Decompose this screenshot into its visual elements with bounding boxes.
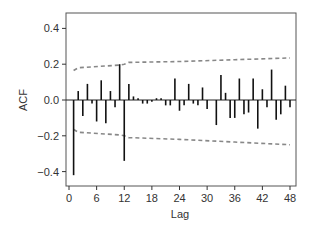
x-tick-label: 18 xyxy=(146,192,158,204)
acf-chart: −0.4−0.20.00.20.4 0612182430364248 Lag A… xyxy=(0,0,312,233)
x-tick-label: 12 xyxy=(118,192,130,204)
x-tick-label: 6 xyxy=(94,192,100,204)
y-axis: −0.4−0.20.00.20.4 xyxy=(37,22,66,177)
x-axis-label: Lag xyxy=(171,208,189,220)
x-tick-label: 36 xyxy=(229,192,241,204)
y-tick-label: 0.4 xyxy=(44,22,59,34)
confidence-band-lower xyxy=(74,130,290,145)
x-tick-label: 48 xyxy=(284,192,296,204)
y-tick-label: −0.4 xyxy=(37,166,59,178)
x-tick-label: 30 xyxy=(201,192,213,204)
y-axis-label: ACF xyxy=(17,89,29,111)
acf-bars xyxy=(74,64,290,175)
confidence-band-upper xyxy=(74,58,290,71)
y-tick-label: 0.2 xyxy=(44,58,59,70)
y-tick-label: 0.0 xyxy=(44,94,59,106)
y-tick-label: −0.2 xyxy=(37,130,59,142)
x-tick-label: 42 xyxy=(256,192,268,204)
x-axis: 0612182430364248 xyxy=(66,186,296,204)
x-tick-label: 0 xyxy=(66,192,72,204)
x-tick-label: 24 xyxy=(173,192,185,204)
